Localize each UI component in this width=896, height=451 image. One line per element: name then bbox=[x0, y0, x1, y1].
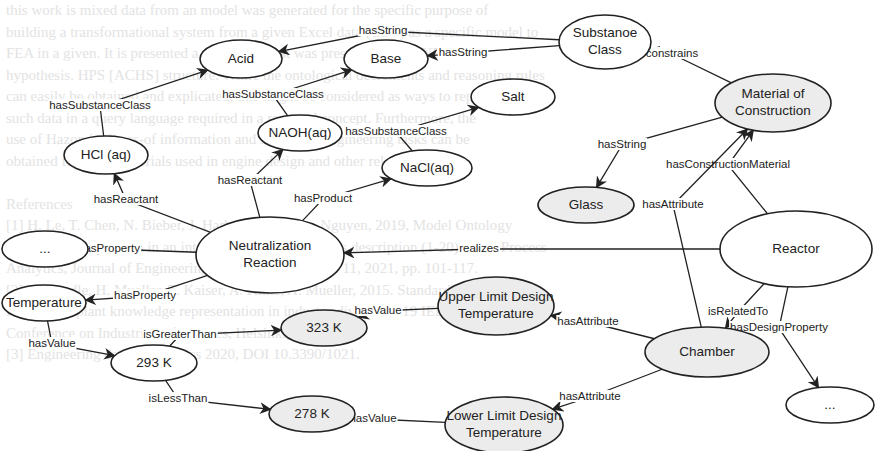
node-base: Base bbox=[344, 40, 428, 78]
node-label: Glass bbox=[569, 197, 604, 212]
edge-label: hasProduct bbox=[294, 192, 353, 204]
edge-label: hasSubstanceClass bbox=[345, 125, 447, 137]
edge-upper-323: hasValue bbox=[353, 304, 438, 317]
node-material: Material ofConstruction bbox=[715, 74, 831, 132]
node-label: 323 K bbox=[306, 320, 341, 335]
node-label: Temperature bbox=[466, 425, 542, 440]
edge-label: isRelatedTo bbox=[708, 305, 768, 317]
edge-mat-constrains: constrains bbox=[645, 47, 732, 83]
edge-nr-temperature: hasProperty bbox=[85, 275, 207, 301]
edge-label: hasSubstanceClass bbox=[222, 88, 324, 100]
edge-nr-hcl: hasReactant bbox=[93, 174, 211, 233]
node-label: Construction bbox=[735, 103, 811, 118]
node-label: Temperature bbox=[6, 295, 82, 310]
edge-label: hasAttribute bbox=[642, 198, 703, 210]
edge-reactor-realizes: realizes bbox=[344, 242, 720, 254]
node-label: ... bbox=[824, 397, 835, 412]
edge-label: hasString bbox=[359, 24, 408, 36]
node-k323: 323 K bbox=[281, 310, 367, 346]
edge-label: isGreaterThan bbox=[143, 328, 217, 340]
node-acid: Acid bbox=[200, 40, 282, 78]
edge-line bbox=[597, 117, 723, 187]
edge-label: hasProperty bbox=[114, 289, 176, 301]
edge-label: hasValue bbox=[28, 337, 75, 349]
edge-label: hasReactant bbox=[218, 174, 283, 186]
node-label: Chamber bbox=[679, 344, 735, 359]
node-salt: Salt bbox=[471, 79, 555, 115]
node-label: Base bbox=[371, 51, 402, 66]
edge-label: hasValue bbox=[349, 412, 396, 424]
edge-nr-naoh: hasReactant bbox=[217, 149, 284, 217]
edge-label: constrains bbox=[646, 47, 699, 59]
node-label: Neutralization bbox=[229, 238, 312, 253]
edge-nr-ellipsis: hasProperty bbox=[77, 242, 196, 254]
node-label: Salt bbox=[501, 89, 525, 104]
node-label: NAOH(aq) bbox=[268, 125, 331, 140]
node-label: Material of bbox=[741, 86, 804, 101]
edge-base-hasstring: hasString bbox=[427, 46, 559, 58]
node-k278: 278 K bbox=[269, 396, 355, 432]
edge-293-323: isGreaterThan bbox=[142, 328, 281, 346]
node-ellipsis-right: ... bbox=[786, 387, 874, 423]
edge-label: isLessThan bbox=[149, 392, 208, 404]
node-temperature: Temperature bbox=[2, 285, 86, 321]
edge-temp-293: hasValue bbox=[27, 321, 114, 356]
node-upper-limit: Upper Limit DesignTemperature bbox=[438, 277, 554, 335]
node-label: Reaction bbox=[243, 255, 296, 270]
node-label: Substanoe bbox=[573, 25, 638, 40]
node-substance-class: SubstanoeClass bbox=[559, 15, 651, 69]
node-ellipse bbox=[445, 397, 563, 451]
node-label: Lower Limit Design bbox=[447, 408, 562, 423]
node-nacl: NaCl(aq) bbox=[382, 150, 472, 186]
node-k293: 293 K bbox=[111, 345, 197, 381]
edge-label: hasAttribute bbox=[557, 315, 618, 327]
edge-label: hasConstructionMaterial bbox=[666, 158, 790, 170]
node-chamber: Chamber bbox=[645, 327, 769, 377]
node-label: HCl (aq) bbox=[81, 147, 131, 162]
edge-lower-278: hasValue bbox=[348, 412, 445, 424]
edge-nr-nacl: hasProduct bbox=[293, 179, 391, 221]
edge-line bbox=[344, 249, 720, 253]
edge-label: hasValue bbox=[354, 304, 401, 316]
node-ellipsis-left: ... bbox=[2, 231, 88, 267]
node-reactor: Reactor bbox=[720, 211, 872, 287]
edge-mat-glass: hasString bbox=[597, 117, 723, 187]
node-label: Reactor bbox=[772, 241, 820, 256]
edge-label: hasString bbox=[598, 138, 647, 150]
node-label: Acid bbox=[228, 51, 254, 66]
node-label: Temperature bbox=[458, 306, 534, 321]
node-neutralization: NeutralizationReaction bbox=[196, 217, 344, 293]
edge-label: realizes bbox=[459, 242, 499, 254]
node-label: Upper Limit Design bbox=[439, 289, 554, 304]
node-glass: Glass bbox=[538, 187, 634, 223]
edge-293-278: isLessThan bbox=[148, 380, 271, 409]
node-label: ... bbox=[39, 241, 50, 256]
node-hcl: HCl (aq) bbox=[64, 136, 148, 174]
edge-label: hasDesignProperty bbox=[730, 321, 828, 333]
edge-line bbox=[779, 287, 818, 388]
node-label: 293 K bbox=[136, 355, 171, 370]
node-lower-limit: Lower Limit DesignTemperature bbox=[445, 397, 563, 451]
edge-chamber-lower: hasAttribute bbox=[553, 369, 662, 409]
node-label: 278 K bbox=[294, 406, 329, 421]
node-naoh: NAOH(aq) bbox=[258, 115, 342, 151]
edge-nacl-salt: hasSubstanceClass bbox=[344, 107, 478, 151]
node-label: Class bbox=[588, 42, 622, 57]
edge-label: hasReactant bbox=[94, 193, 159, 205]
edge-chamber-upper: hasAttribute bbox=[551, 315, 655, 339]
ontology-diagram: hasStringhasStringconstrainshasSubstance… bbox=[0, 0, 896, 451]
edge-label: hasAttribute bbox=[559, 390, 620, 402]
node-label: NaCl(aq) bbox=[400, 160, 454, 175]
nodes-layer: SubstanoeClassAcidBaseSaltMaterial ofCon… bbox=[2, 15, 874, 451]
edge-label: hasSubstanceClass bbox=[49, 99, 151, 111]
edge-hcl-acid: hasSubstanceClass bbox=[48, 70, 208, 136]
edge-label: hasString bbox=[439, 46, 488, 58]
